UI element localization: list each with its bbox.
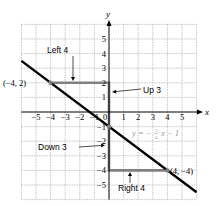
arrow-left-icon [112,90,116,94]
y-tick: −5 [97,180,106,190]
point-label-4-neg4: (4, −4) [170,166,193,176]
x-tick: 5 [180,112,184,122]
equation-label: y = − 3 4 x − 1 [131,128,179,140]
equation-prefix: y = − [131,128,152,138]
y-tick: 3 [102,63,106,73]
x-tick: −3 [61,112,70,122]
y-tick: 4 [102,49,107,59]
x-axis-arrow-icon [197,110,203,115]
y-tick: −3 [97,151,106,161]
y-tick: −4 [97,165,107,175]
point-4-neg4 [165,168,169,172]
x-axis-label: x [204,107,209,117]
x-tick: 0 [103,112,107,122]
coordinate-plane: x y −5 −4 −3 −2 −1 0 1 2 3 4 5 5 4 3 2 1… [0,0,217,206]
y-tick: 5 [102,34,106,44]
equation-numerator: 3 [155,128,158,133]
annotation-down: Down 3 [38,142,67,152]
arrow-down-icon [71,77,75,81]
annotation-up: Up 3 [143,85,161,95]
arrow-up-icon [128,172,132,176]
x-tick: 3 [151,112,155,122]
equation-suffix: x − 1 [160,128,179,138]
y-axis-arrow-icon [107,20,112,26]
y-tick: 1 [102,92,106,102]
annotation-right: Right 4 [118,183,145,193]
x-tick: −5 [31,112,40,122]
y-axis-label: y [105,9,110,19]
y-tick: 2 [102,78,106,88]
x-tick: −4 [46,112,56,122]
x-tick: −2 [75,112,84,122]
x-tick: 1 [121,112,125,122]
annotation-left: Left 4 [47,45,69,55]
point-label-neg4-2: (−4, 2) [3,78,26,88]
x-tick: −1 [90,112,99,122]
equation-denominator: 4 [155,135,158,140]
point-neg4-2 [48,81,52,85]
y-tick: −1 [97,122,106,132]
x-tick: 4 [165,112,170,122]
point-0-neg1 [107,124,111,128]
x-tick: 2 [136,112,140,122]
